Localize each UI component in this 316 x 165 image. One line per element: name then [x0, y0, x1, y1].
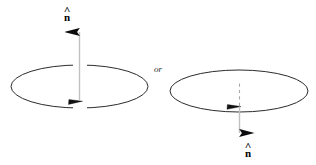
circulation-arrowhead-left	[69, 100, 83, 105]
hat-accent-up: ^	[64, 8, 71, 12]
normal-down-diagram	[170, 70, 308, 133]
hat-accent-down: ^	[245, 144, 252, 148]
physics-figure: ^ n or ^ n	[0, 0, 316, 165]
normal-up-diagram	[11, 32, 148, 108]
figure-canvas	[0, 0, 316, 165]
normal-label-up: ^ n	[64, 8, 70, 22]
normal-label-down: ^ n	[245, 144, 251, 158]
conjunction-or: or	[154, 65, 162, 74]
